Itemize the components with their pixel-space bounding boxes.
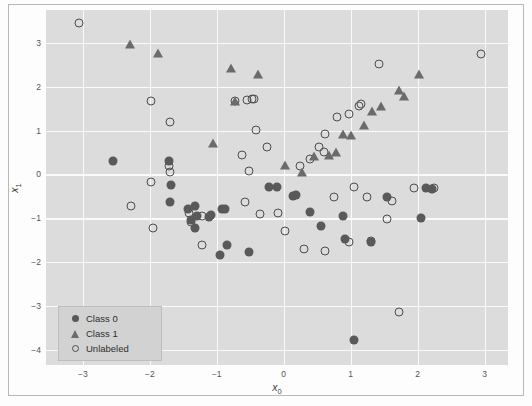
x-tick-label: 2 — [415, 369, 420, 379]
x-axis-label-subscript: 0 — [278, 387, 282, 396]
y-tick-label: −4 — [31, 345, 41, 355]
data-point-unlabeled — [127, 201, 136, 210]
open-circle-icon — [72, 345, 79, 352]
x-tick-label: −2 — [145, 369, 155, 379]
data-point-unlabeled — [329, 193, 338, 202]
data-point-class-1 — [226, 63, 236, 72]
data-point-class-0 — [165, 197, 174, 206]
y-axis-label-subscript: 1 — [14, 183, 23, 187]
data-point-class-0 — [416, 214, 425, 223]
data-point-class-1 — [376, 102, 386, 111]
data-point-unlabeled — [251, 125, 260, 134]
data-point-unlabeled — [333, 112, 342, 121]
data-point-unlabeled — [147, 178, 156, 187]
data-point-class-1 — [359, 121, 369, 130]
data-point-class-0 — [273, 182, 282, 191]
data-point-unlabeled — [147, 96, 156, 105]
data-point-unlabeled — [321, 130, 330, 139]
legend-swatch — [64, 315, 86, 322]
legend-item: Class 0 — [64, 311, 156, 326]
data-point-class-0 — [108, 157, 117, 166]
data-point-unlabeled — [238, 150, 247, 159]
data-point-class-0 — [383, 193, 392, 202]
triangle-icon — [71, 330, 79, 338]
filled-circle-icon — [72, 315, 79, 322]
gridline-vertical — [217, 10, 218, 365]
data-point-class-0 — [216, 251, 225, 260]
legend-item: Class 1 — [64, 326, 156, 341]
data-point-unlabeled — [299, 244, 308, 253]
y-axis-label-base: x — [8, 187, 20, 192]
data-point-unlabeled — [198, 241, 207, 250]
data-point-unlabeled — [410, 183, 419, 192]
data-point-unlabeled — [281, 227, 290, 236]
data-point-class-0 — [167, 181, 176, 190]
x-tick-label: 1 — [348, 369, 353, 379]
legend-label: Unlabeled — [86, 343, 129, 354]
data-point-class-0 — [316, 222, 325, 231]
gridline-horizontal — [46, 174, 508, 175]
data-point-class-1 — [399, 92, 409, 101]
y-tick-label: −1 — [31, 213, 41, 223]
data-point-class-0 — [164, 156, 173, 165]
data-point-unlabeled — [165, 168, 174, 177]
data-point-class-0 — [190, 223, 199, 232]
data-point-unlabeled — [350, 182, 359, 191]
gridline-horizontal — [46, 43, 508, 44]
legend-swatch — [64, 345, 86, 352]
data-point-unlabeled — [374, 59, 383, 68]
data-point-unlabeled — [149, 223, 158, 232]
data-point-unlabeled — [477, 49, 486, 58]
data-point-class-0 — [341, 235, 350, 244]
y-tick-label: 2 — [36, 82, 41, 92]
data-point-class-0 — [220, 205, 229, 214]
data-point-class-0 — [306, 207, 315, 216]
data-point-unlabeled — [345, 109, 354, 118]
y-axis-label: x1 — [8, 183, 23, 192]
legend-label: Class 0 — [86, 313, 118, 324]
data-point-class-0 — [244, 248, 253, 257]
data-point-class-1 — [280, 160, 290, 169]
y-tick-label: −3 — [31, 301, 41, 311]
gridline-horizontal — [46, 218, 508, 219]
data-point-unlabeled — [165, 117, 174, 126]
data-point-class-0 — [191, 201, 200, 210]
data-point-class-0 — [338, 211, 347, 220]
data-point-class-1 — [208, 138, 218, 147]
gridline-horizontal — [46, 131, 508, 132]
legend-label: Class 1 — [86, 328, 118, 339]
data-point-unlabeled — [394, 308, 403, 317]
data-point-class-0 — [428, 184, 437, 193]
gridline-horizontal — [46, 262, 508, 263]
scatter-plot-figure: −3−2−10123 3210−1−2−3−4 x0 x1 Class 0Cla… — [0, 0, 532, 406]
data-point-unlabeled — [240, 197, 249, 206]
y-tick-label: 0 — [36, 169, 41, 179]
data-point-class-0 — [350, 336, 359, 345]
data-point-unlabeled — [321, 247, 330, 256]
data-point-class-0 — [366, 238, 375, 247]
data-point-class-1 — [309, 151, 319, 160]
data-point-class-0 — [222, 241, 231, 250]
data-point-class-1 — [153, 48, 163, 57]
x-tick-label: 0 — [281, 369, 286, 379]
data-point-class-1 — [253, 70, 263, 79]
data-point-class-1 — [414, 69, 424, 78]
data-point-unlabeled — [363, 193, 372, 202]
data-point-unlabeled — [262, 143, 271, 152]
y-tick-label: 3 — [36, 38, 41, 48]
data-point-unlabeled — [256, 209, 265, 218]
data-point-class-1 — [125, 40, 135, 49]
y-tick-label: −2 — [31, 257, 41, 267]
y-tick-label: 1 — [36, 126, 41, 136]
data-point-unlabeled — [75, 19, 84, 28]
data-point-unlabeled — [383, 215, 392, 224]
x-axis-label: x0 — [272, 381, 281, 396]
data-point-class-1 — [331, 147, 341, 156]
data-point-unlabeled — [244, 166, 253, 175]
x-tick-label: −1 — [212, 369, 222, 379]
data-point-unlabeled — [356, 100, 365, 109]
legend-swatch — [64, 330, 86, 338]
gridline-vertical — [485, 10, 486, 365]
x-tick-label: −3 — [78, 369, 88, 379]
data-point-class-0 — [207, 210, 216, 219]
